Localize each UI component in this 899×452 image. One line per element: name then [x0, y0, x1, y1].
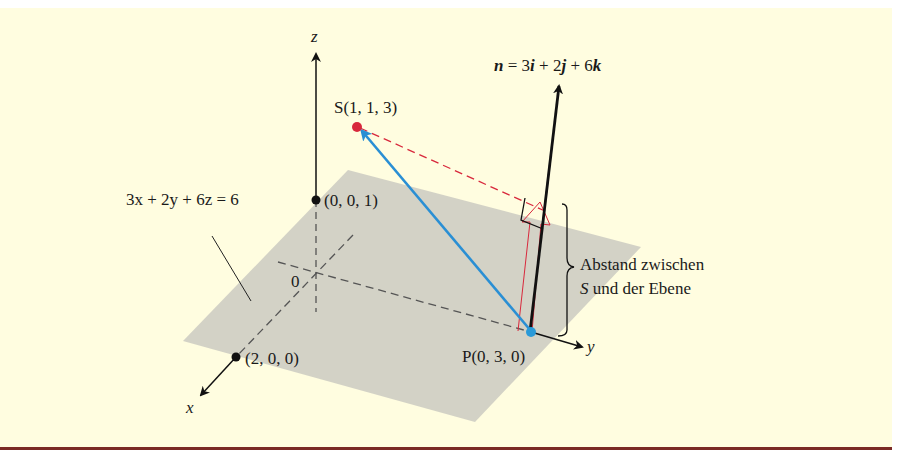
point-P-label: P(0, 3, 0) [462, 347, 525, 366]
point-z-intercept-label: (0, 0, 1) [324, 191, 378, 210]
plane-equation-label: 3x + 2y + 6z = 6 [126, 190, 239, 209]
origin-label: 0 [291, 272, 300, 291]
distance-diagram: z x y 0 3x + 2y + 6z = 6 S(1, 1, 3) (0, … [0, 0, 899, 452]
y-axis-label: y [585, 337, 595, 356]
plane [183, 170, 641, 422]
z-axis-label: z [310, 27, 318, 46]
point-x-intercept [232, 353, 241, 362]
normal-vector-label: n = 3i + 2j + 6k [494, 56, 602, 75]
point-S [352, 122, 362, 132]
point-S-label: S(1, 1, 3) [334, 98, 397, 117]
x-axis-label: x [185, 398, 194, 417]
point-P [526, 327, 536, 337]
distance-note-line1: Abstand zwischen [580, 255, 705, 274]
point-x-intercept-label: (2, 0, 0) [245, 349, 299, 368]
distance-note-line2: S und der Ebene [580, 279, 691, 298]
x-axis [201, 357, 236, 395]
point-z-intercept [312, 196, 321, 205]
